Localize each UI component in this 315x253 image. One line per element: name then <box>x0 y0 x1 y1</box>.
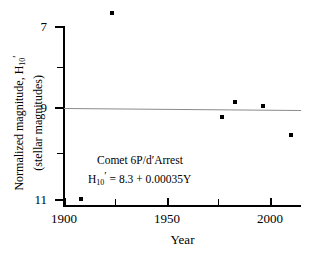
x-tick-major-1900 <box>64 198 66 206</box>
y-tick-minor-8 <box>57 67 64 68</box>
y-axis-title-line2: (stellar magnitudes) <box>30 35 44 210</box>
annotation-comet-name: Comet 6P/d′Arrest <box>88 153 191 168</box>
y-tick-major-9 <box>55 107 64 109</box>
data-point <box>110 11 114 15</box>
x-axis-title: Year <box>0 232 315 248</box>
y-axis-title: Normalized magnitude, H10′ (stellar magn… <box>9 35 45 210</box>
x-tick-minor-1975 <box>218 199 219 206</box>
data-point <box>289 133 293 137</box>
figure-container: 7 9 11 1900 1950 2000 Year Normalized ma… <box>0 0 315 253</box>
x-tick-major-1950 <box>167 198 169 206</box>
y-axis-title-subscript: 10 <box>18 58 27 66</box>
y-tick-minor-10 <box>57 153 64 154</box>
data-point <box>220 115 224 119</box>
x-tick-label-1900: 1900 <box>41 212 87 225</box>
y-axis-title-line1: Normalized magnitude, H <box>12 66 26 191</box>
y-tick-label-7: 7 <box>41 20 48 33</box>
x-tick-minor-1925 <box>115 199 116 206</box>
y-tick-major-11 <box>55 199 64 201</box>
data-point <box>79 197 83 201</box>
data-point <box>233 100 237 104</box>
y-axis-title-prime: ′ <box>10 55 22 57</box>
y-axis-line <box>63 26 65 207</box>
x-tick-major-2000 <box>270 198 272 206</box>
annotation-equation: H10′ = 8.3 + 0.00035Y <box>88 168 191 190</box>
chart-annotation: Comet 6P/d′Arrest H10′ = 8.3 + 0.00035Y <box>88 153 191 190</box>
annotation-equation-rest: = 8.3 + 0.00035Y <box>107 173 192 185</box>
y-tick-major-7 <box>55 26 64 28</box>
trend-line <box>64 108 301 111</box>
x-tick-label-2000: 2000 <box>247 212 293 225</box>
data-point <box>261 104 265 108</box>
x-tick-label-1950: 1950 <box>144 212 190 225</box>
x-axis-line <box>63 205 301 207</box>
